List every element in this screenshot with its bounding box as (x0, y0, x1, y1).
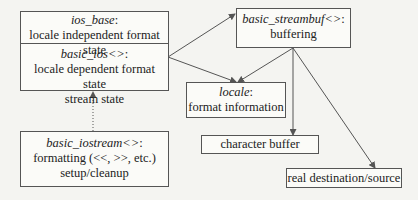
basic-streambuf-class-name: basic_streambuf<> (242, 12, 341, 26)
basic-ios-desc-1: locale dependent format state (23, 62, 166, 92)
basic-ios-section: basic_ios<>: locale dependent format sta… (21, 43, 168, 109)
colon: : (139, 136, 142, 150)
basic-ios-class-name: basic_ios<> (61, 47, 125, 61)
basic-iostream-box: basic_iostream<>: formatting (<<, >>, et… (20, 131, 169, 187)
character-buffer-box: character buffer (201, 135, 319, 154)
edge-streambuf-to-locale (238, 48, 293, 82)
colon: : (341, 12, 344, 26)
colon: : (125, 47, 128, 61)
basic-iostream-class-name: basic_iostream<> (46, 136, 139, 150)
real-destination-label: real destination/source (287, 171, 401, 186)
edge-ios-to-locale (168, 57, 236, 82)
basic-streambuf-box: basic_streambuf<>: buffering (236, 8, 351, 48)
basic-ios-desc-2: stream state (23, 92, 166, 107)
basic-iostream-desc-2: setup/cleanup (21, 166, 168, 181)
basic-iostream-desc-1: formatting (<<, >>, etc.) (21, 151, 168, 166)
basic-streambuf-desc: buffering (237, 27, 350, 42)
character-buffer-label: character buffer (202, 137, 318, 152)
colon: : (250, 85, 253, 99)
colon: : (115, 13, 118, 27)
ios-base-section: ios_base: locale independent format stat… (21, 12, 168, 43)
edge-ios-to-streambuf (168, 14, 235, 57)
locale-desc: format information (187, 100, 285, 115)
real-destination-box: real destination/source (286, 168, 402, 188)
ios-base-class-name: ios_base (71, 13, 115, 27)
locale-class-name: locale (219, 85, 250, 99)
locale-box: locale: format information (186, 82, 286, 118)
ios-base-box: ios_base: locale independent format stat… (20, 11, 169, 91)
